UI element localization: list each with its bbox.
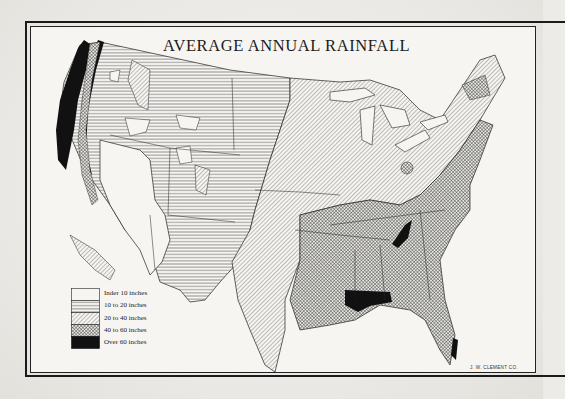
legend-label: 40 to 60 inches <box>104 326 147 334</box>
legend-label: 10 to 20 inches <box>104 301 147 309</box>
legend-item-over-60: Over 60 inches <box>71 339 163 351</box>
map-title: AVERAGE ANNUAL RAINFALL <box>163 36 410 56</box>
legend-label: Inder 10 inches <box>104 289 147 297</box>
legend-label: Over 60 inches <box>104 338 146 346</box>
legend-item-10-20: 10 to 20 inches <box>71 302 163 314</box>
publisher-credit: J. W. CLEMENT CO. <box>470 365 518 370</box>
legend-label: 20 to 40 inches <box>104 314 147 322</box>
